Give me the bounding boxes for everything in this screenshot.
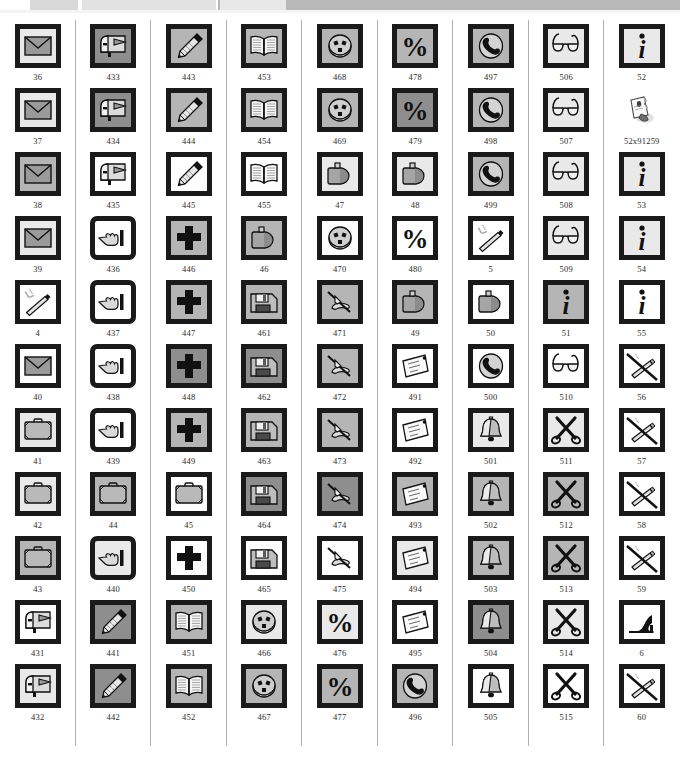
icon-tile[interactable] bbox=[543, 88, 589, 132]
icon-cell[interactable]: 45 bbox=[151, 472, 227, 536]
icon-tile[interactable] bbox=[166, 536, 212, 580]
icon-tile[interactable] bbox=[15, 280, 61, 324]
icon-tile[interactable]: i bbox=[619, 24, 665, 68]
icon-cell[interactable]: %479 bbox=[378, 88, 454, 152]
icon-tile[interactable]: % bbox=[392, 216, 438, 260]
icon-tile[interactable] bbox=[619, 344, 665, 388]
icon-cell[interactable]: 496 bbox=[378, 664, 454, 728]
icon-tile[interactable] bbox=[15, 408, 61, 452]
icon-cell[interactable]: 513 bbox=[529, 536, 605, 600]
icon-tile[interactable] bbox=[166, 280, 212, 324]
icon-tile[interactable] bbox=[90, 24, 136, 68]
icon-cell[interactable]: 44 bbox=[76, 472, 152, 536]
icon-tile[interactable] bbox=[241, 280, 287, 324]
icon-cell[interactable]: 50 bbox=[453, 280, 529, 344]
icon-tile[interactable] bbox=[543, 408, 589, 452]
icon-cell[interactable]: 503 bbox=[453, 536, 529, 600]
icon-cell[interactable]: i53 bbox=[604, 152, 680, 216]
icon-cell[interactable]: 438 bbox=[76, 344, 152, 408]
icon-cell[interactable]: 475 bbox=[302, 536, 378, 600]
icon-tile[interactable] bbox=[317, 24, 363, 68]
icon-tile[interactable]: % bbox=[392, 24, 438, 68]
icon-tile[interactable] bbox=[619, 88, 665, 132]
icon-tile[interactable] bbox=[468, 152, 514, 196]
icon-cell[interactable]: 495 bbox=[378, 600, 454, 664]
icon-cell[interactable]: 462 bbox=[227, 344, 303, 408]
icon-tile[interactable] bbox=[468, 88, 514, 132]
icon-tile[interactable] bbox=[241, 664, 287, 708]
icon-cell[interactable]: 470 bbox=[302, 216, 378, 280]
icon-tile[interactable] bbox=[317, 472, 363, 516]
icon-tile[interactable] bbox=[241, 216, 287, 260]
icon-cell[interactable]: 453 bbox=[227, 24, 303, 88]
icon-tile[interactable] bbox=[166, 88, 212, 132]
icon-cell[interactable]: 46 bbox=[227, 216, 303, 280]
icon-tile[interactable] bbox=[15, 600, 61, 644]
icon-cell[interactable]: 468 bbox=[302, 24, 378, 88]
icon-tile[interactable] bbox=[90, 344, 136, 388]
icon-cell[interactable]: 509 bbox=[529, 216, 605, 280]
icon-tile[interactable] bbox=[543, 600, 589, 644]
icon-cell[interactable]: 437 bbox=[76, 280, 152, 344]
icon-tile[interactable] bbox=[241, 88, 287, 132]
icon-tile[interactable] bbox=[468, 344, 514, 388]
icon-cell[interactable]: 497 bbox=[453, 24, 529, 88]
icon-cell[interactable]: 510 bbox=[529, 344, 605, 408]
icon-tile[interactable] bbox=[317, 408, 363, 452]
icon-tile[interactable] bbox=[619, 408, 665, 452]
icon-tile[interactable] bbox=[543, 216, 589, 260]
icon-cell[interactable]: 446 bbox=[151, 216, 227, 280]
icon-tile[interactable] bbox=[90, 472, 136, 516]
icon-tile[interactable] bbox=[166, 344, 212, 388]
icon-tile[interactable] bbox=[468, 600, 514, 644]
icon-tile[interactable] bbox=[166, 600, 212, 644]
icon-cell[interactable]: i52 bbox=[604, 24, 680, 88]
icon-cell[interactable]: 463 bbox=[227, 408, 303, 472]
icon-tile[interactable] bbox=[241, 408, 287, 452]
icon-tile[interactable] bbox=[468, 24, 514, 68]
icon-tile[interactable] bbox=[392, 472, 438, 516]
icon-tile[interactable] bbox=[543, 344, 589, 388]
icon-cell[interactable]: 504 bbox=[453, 600, 529, 664]
icon-cell[interactable]: 36 bbox=[0, 24, 76, 88]
icon-tile[interactable] bbox=[543, 152, 589, 196]
icon-cell[interactable]: 434 bbox=[76, 88, 152, 152]
icon-cell[interactable]: 469 bbox=[302, 88, 378, 152]
icon-cell[interactable]: 498 bbox=[453, 88, 529, 152]
icon-cell[interactable]: 491 bbox=[378, 344, 454, 408]
icon-tile[interactable] bbox=[166, 664, 212, 708]
icon-cell[interactable]: 52x91259 bbox=[604, 88, 680, 152]
icon-cell[interactable]: 512 bbox=[529, 472, 605, 536]
icon-tile[interactable] bbox=[241, 344, 287, 388]
icon-tile[interactable] bbox=[468, 664, 514, 708]
icon-cell[interactable]: 452 bbox=[151, 664, 227, 728]
icon-tile[interactable] bbox=[15, 216, 61, 260]
icon-cell[interactable]: 500 bbox=[453, 344, 529, 408]
icon-cell[interactable]: 493 bbox=[378, 472, 454, 536]
icon-tile[interactable]: i bbox=[619, 280, 665, 324]
icon-cell[interactable]: 450 bbox=[151, 536, 227, 600]
icon-tile[interactable] bbox=[392, 664, 438, 708]
icon-tile[interactable] bbox=[90, 152, 136, 196]
icon-tile[interactable] bbox=[241, 152, 287, 196]
icon-cell[interactable]: 41 bbox=[0, 408, 76, 472]
icon-tile[interactable] bbox=[15, 344, 61, 388]
icon-cell[interactable]: 4 bbox=[0, 280, 76, 344]
icon-cell[interactable]: 454 bbox=[227, 88, 303, 152]
icon-cell[interactable]: 56 bbox=[604, 344, 680, 408]
icon-cell[interactable]: 439 bbox=[76, 408, 152, 472]
icon-cell[interactable]: 57 bbox=[604, 408, 680, 472]
icon-cell[interactable]: 472 bbox=[302, 344, 378, 408]
icon-cell[interactable]: 60 bbox=[604, 664, 680, 728]
icon-tile[interactable] bbox=[619, 536, 665, 580]
icon-cell[interactable]: 58 bbox=[604, 472, 680, 536]
icon-cell[interactable]: 465 bbox=[227, 536, 303, 600]
icon-cell[interactable]: 6 bbox=[604, 600, 680, 664]
icon-tile[interactable] bbox=[392, 344, 438, 388]
icon-tile[interactable] bbox=[392, 152, 438, 196]
icon-cell[interactable]: 507 bbox=[529, 88, 605, 152]
icon-tile[interactable] bbox=[90, 600, 136, 644]
icon-tile[interactable] bbox=[317, 88, 363, 132]
icon-cell[interactable]: 436 bbox=[76, 216, 152, 280]
icon-tile[interactable] bbox=[241, 472, 287, 516]
